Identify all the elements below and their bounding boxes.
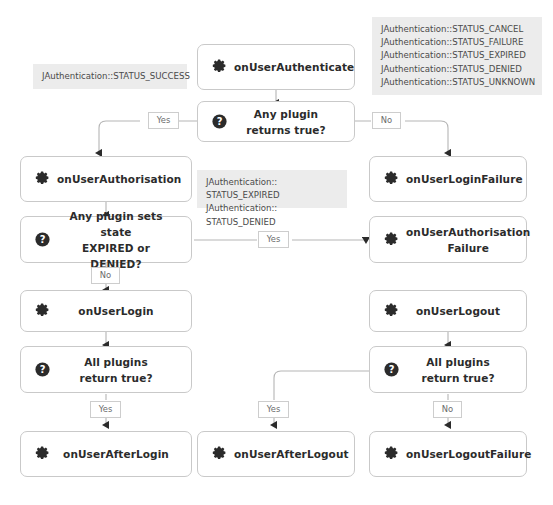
node-on-user-after-logout[interactable]: onUserAfterLogout	[197, 431, 355, 477]
edge-decision-no-to-loginfailure	[355, 121, 448, 153]
node-label: Any plugin sets state EXPIRED or DENIED?	[57, 208, 181, 272]
legend-status-expired-denied: JAuthentication:: STATUS_EXPIRED JAuthen…	[197, 170, 347, 208]
node-label: onUserAfterLogout	[234, 447, 355, 462]
flowchart-canvas: JAuthentication::STATUS_SUCCESS JAuthent…	[0, 0, 553, 505]
node-label: onUserAuthenticate	[234, 60, 360, 75]
node-label: onUserLogout	[406, 304, 516, 319]
node-label: onUserAuthorisation	[57, 172, 187, 187]
node-on-user-logout-failure[interactable]: onUserLogoutFailure	[369, 431, 527, 477]
question-mark-icon: ?	[380, 359, 402, 381]
gear-icon	[380, 443, 402, 465]
gear-icon	[31, 300, 53, 322]
legend-status-success: JAuthentication::STATUS_SUCCESS	[33, 64, 187, 89]
edge-label-login-yes: Yes	[90, 401, 121, 418]
edge-label-auth-no: No	[372, 112, 401, 129]
node-all-plugins-return-true-logout[interactable]: ? All plugins return true?	[369, 346, 527, 393]
node-on-user-logout[interactable]: onUserLogout	[369, 290, 527, 332]
gear-icon	[31, 168, 53, 190]
node-on-user-authorisation-failure[interactable]: onUserAuthorisation Failure	[369, 216, 527, 263]
node-label: All plugins return true?	[406, 354, 516, 386]
svg-text:?: ?	[39, 234, 45, 245]
node-label: onUserAfterLogin	[57, 447, 181, 462]
question-mark-icon: ?	[31, 229, 53, 251]
node-label: onUserAuthorisation Failure	[406, 224, 536, 256]
svg-text:?: ?	[216, 116, 222, 127]
svg-text:?: ?	[39, 364, 45, 375]
gear-icon	[380, 168, 402, 190]
svg-text:?: ?	[388, 364, 394, 375]
node-on-user-authorisation[interactable]: onUserAuthorisation	[20, 156, 192, 202]
node-label: Any plugin returns true?	[234, 106, 344, 138]
legend-status-failures: JAuthentication::STATUS_CANCEL JAuthenti…	[372, 17, 542, 95]
edge-label-logout-no: No	[433, 401, 462, 418]
node-label: onUserLoginFailure	[406, 172, 529, 187]
edge-label-state-no: No	[91, 267, 120, 284]
edge-label-auth-yes: Yes	[148, 112, 179, 129]
node-all-plugins-return-true-login[interactable]: ? All plugins return true?	[20, 346, 192, 393]
edge-label-state-yes: Yes	[258, 231, 289, 248]
question-mark-icon: ?	[208, 111, 230, 133]
gear-icon	[380, 229, 402, 251]
node-label: onUserLogin	[57, 304, 181, 319]
node-label: onUserLogoutFailure	[406, 447, 537, 462]
node-any-plugin-returns-true[interactable]: ? Any plugin returns true?	[197, 101, 355, 142]
gear-icon	[31, 443, 53, 465]
edge-label-logout-yes: Yes	[258, 401, 289, 418]
node-any-plugin-sets-state[interactable]: ? Any plugin sets state EXPIRED or DENIE…	[20, 216, 192, 263]
gear-icon	[380, 300, 402, 322]
gear-icon	[208, 56, 230, 78]
gear-icon	[208, 443, 230, 465]
node-label: All plugins return true?	[57, 354, 181, 386]
node-on-user-after-login[interactable]: onUserAfterLogin	[20, 431, 192, 477]
node-on-user-login-failure[interactable]: onUserLoginFailure	[369, 156, 527, 202]
question-mark-icon: ?	[31, 359, 53, 381]
node-on-user-login[interactable]: onUserLogin	[20, 290, 192, 332]
node-on-user-authenticate[interactable]: onUserAuthenticate	[197, 44, 355, 90]
